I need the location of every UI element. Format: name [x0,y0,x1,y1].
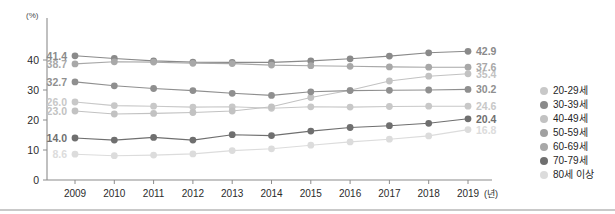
x-axis-tick-label: 2017 [378,188,401,199]
legend-dot-icon [540,171,548,179]
data-point [425,120,432,127]
x-axis-tick-label: 2014 [260,188,283,199]
data-point [72,135,79,142]
x-axis-tick-label: 2009 [64,188,87,199]
data-point [307,142,314,149]
data-point [190,137,197,144]
end-value-label: 30.2 [476,83,497,95]
legend-item[interactable]: 40-49세 [540,112,615,126]
legend-item[interactable]: 60-69세 [540,140,615,154]
data-point [425,133,432,140]
data-point [386,122,393,129]
data-point [386,87,393,94]
data-point [111,111,118,118]
data-point [150,103,157,110]
data-point [150,134,157,141]
data-point [72,151,79,158]
data-point [111,137,118,144]
legend-item-label: 20-29세 [553,84,588,98]
data-point [386,64,393,71]
data-point [347,87,354,94]
data-point [72,52,79,59]
data-point [268,62,275,69]
legend-item[interactable]: 30-39세 [540,98,615,112]
chart-svg: (%)0102030402009201020112012201320142015… [0,0,615,214]
data-point [72,99,79,106]
legend-item-label: 50-59세 [553,126,588,140]
y-axis-tick-label: 40 [27,54,39,66]
start-value-label: 8.6 [52,148,67,160]
data-point [465,126,472,133]
legend-item[interactable]: 50-59세 [540,126,615,140]
data-point [268,132,275,139]
data-point [307,128,314,135]
data-point [347,104,354,111]
data-point [347,63,354,70]
x-axis-tick-label: 2010 [103,188,126,199]
data-point [190,151,197,158]
x-axis-tick-label: 2018 [418,188,441,199]
start-value-label: 32.7 [47,76,68,88]
data-point [425,103,432,110]
legend-item-label: 60-69세 [553,140,588,154]
end-value-label: 42.9 [476,45,497,57]
legend-dot-icon [540,87,548,95]
x-axis-tick-label: 2015 [300,188,323,199]
bottom-divider [0,209,615,211]
x-axis-tick-label: 2016 [339,188,362,199]
data-point [268,103,275,110]
data-point [425,49,432,56]
data-point [150,85,157,92]
data-point [386,53,393,60]
data-point [190,109,197,116]
legend-item[interactable]: 80세 이상 [540,168,615,182]
data-point [307,88,314,95]
data-point [386,136,393,143]
data-point [190,60,197,67]
data-point [229,90,236,97]
data-point [111,102,118,109]
x-axis-tick-label: 2012 [182,188,205,199]
data-point [347,55,354,62]
start-value-label: 14.0 [47,132,68,144]
y-axis-unit-label: (%) [26,11,39,20]
data-point [465,103,472,110]
data-point [465,64,472,71]
data-point [72,79,79,86]
data-point [307,62,314,69]
data-point [465,86,472,93]
legend-item-label: 70-79세 [553,154,588,168]
data-point [111,58,118,65]
legend-dot-icon [540,101,548,109]
legend-item[interactable]: 20-29세 [540,84,615,98]
data-point [465,115,472,122]
legend-item[interactable]: 70-79세 [540,154,615,168]
legend-dot-icon [540,129,548,137]
data-point [425,73,432,80]
chart-root: (%)0102030402009201020112012201320142015… [0,0,615,214]
legend-item-label: 40-49세 [553,112,588,126]
data-point [72,61,79,68]
legend-dot-icon [540,115,548,123]
legend-item-label: 80세 이상 [553,168,594,182]
start-value-label: 38.7 [47,58,68,70]
data-point [229,147,236,154]
legend-dot-icon [540,157,548,165]
y-axis-tick-label: 0 [33,174,39,186]
line-chart: (%)0102030402009201020112012201320142015… [0,0,615,214]
data-point [465,48,472,55]
data-point [229,108,236,115]
data-point [150,110,157,117]
x-axis-tick-label: 2019 [457,188,480,199]
y-axis-tick-label: 20 [27,114,39,126]
data-point [111,152,118,159]
series-80세 이상 [72,126,472,159]
data-point [465,70,472,77]
data-point [229,60,236,67]
series-50-59세 [72,79,472,99]
x-axis-tick-label: 2013 [221,188,244,199]
end-value-label: 24.6 [476,100,497,112]
data-point [386,103,393,110]
y-axis-tick-label: 10 [27,144,39,156]
data-point [347,139,354,146]
